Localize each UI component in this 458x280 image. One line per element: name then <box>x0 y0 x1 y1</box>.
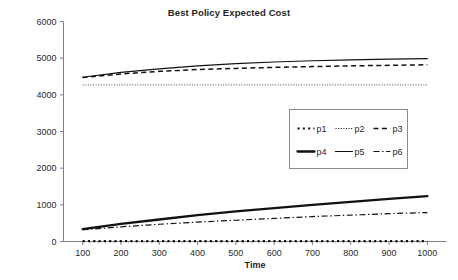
legend-label-p6: p6 <box>393 147 403 157</box>
series-line-p6 <box>83 213 428 230</box>
y-tick-label: 3000 <box>36 127 56 137</box>
chart-container: Best Policy Expected Cost 01000200030004… <box>0 0 458 280</box>
y-tick-label: 2000 <box>36 163 56 173</box>
chart-legend: p1p2p3p4p5p6 <box>290 110 408 169</box>
y-tick-label: 5000 <box>36 53 56 63</box>
x-tick-label: 400 <box>190 248 205 258</box>
legend-label-p4: p4 <box>317 147 327 157</box>
y-tick-label: 1000 <box>36 200 56 210</box>
plot-area: 0100020003000400050006000 10020030040050… <box>0 0 458 280</box>
x-axis-title: Time <box>245 260 266 270</box>
legend-label-p1: p1 <box>317 124 327 134</box>
legend-label-p3: p3 <box>393 124 403 134</box>
y-tick-label: 0 <box>51 237 56 247</box>
y-tick-label: 4000 <box>36 90 56 100</box>
x-tick-label: 600 <box>267 248 282 258</box>
x-tick-label: 100 <box>75 248 90 258</box>
x-tick-label: 1000 <box>417 248 437 258</box>
y-tick-label: 6000 <box>36 17 56 27</box>
series-line-p4 <box>83 196 428 229</box>
x-tick-label: 800 <box>343 248 358 258</box>
x-tick-label: 700 <box>305 248 320 258</box>
x-tick-label: 900 <box>382 248 397 258</box>
y-axis-tick-labels: 0100020003000400050006000 <box>36 17 56 247</box>
legend-label-p2: p2 <box>355 124 365 134</box>
legend-label-p5: p5 <box>355 147 365 157</box>
x-tick-label: 200 <box>113 248 128 258</box>
x-tick-label: 300 <box>152 248 167 258</box>
x-axis-tick-labels: 1002003004005006007008009001000 <box>75 248 437 258</box>
x-tick-label: 500 <box>228 248 243 258</box>
